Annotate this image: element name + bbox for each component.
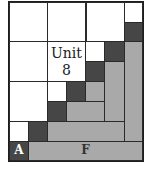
f-strip: F [28, 141, 143, 161]
dark-square [28, 121, 48, 142]
dark-square [66, 81, 86, 102]
a-label: A [14, 144, 23, 158]
gray-strip-horizontal-middle [47, 121, 125, 142]
dark-square [47, 101, 67, 122]
small-white-square [85, 41, 105, 62]
unit-label: Unit 8 [51, 45, 82, 77]
gray-square [85, 81, 105, 102]
gray-strip-horizontal-inner [66, 101, 105, 122]
large-white-square [9, 41, 48, 82]
dark-square [85, 61, 105, 82]
dark-square [124, 22, 143, 42]
unit-8-square: Unit 8 [47, 41, 86, 82]
large-white-square [86, 2, 125, 42]
a-square: A [9, 141, 29, 161]
dark-square [104, 41, 125, 62]
small-white-square [124, 2, 143, 23]
large-white-square [9, 2, 48, 42]
gray-strip-vertical-outer [124, 41, 143, 142]
small-white-square [47, 81, 67, 102]
small-white-square [9, 121, 29, 142]
f-label: F [81, 144, 90, 158]
large-white-square [47, 2, 86, 42]
quilt-block-diagram: Unit 8 A F [8, 1, 144, 162]
large-white-square [9, 81, 48, 122]
